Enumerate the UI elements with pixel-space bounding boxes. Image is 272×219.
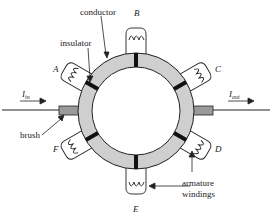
brush-right (193, 106, 213, 115)
label-brush: brush (20, 130, 40, 140)
label-windings: windings (182, 189, 216, 199)
label-winding-E: E (132, 204, 139, 214)
ring-inner-edge (92, 67, 180, 155)
label-insulator: insulator (60, 38, 92, 48)
label-conductor: conductor (80, 7, 116, 17)
label-armature: armature (182, 178, 214, 188)
label-current-out: Iout (228, 89, 240, 100)
commutator-diagram: conductor insulator brush armature windi… (0, 0, 272, 219)
winding-E (126, 166, 146, 194)
label-winding-C: C (215, 64, 222, 74)
winding-B (126, 28, 146, 56)
label-winding-D: D (214, 144, 222, 154)
label-winding-F: F (52, 144, 59, 154)
brush-left (59, 106, 79, 115)
label-winding-B: B (134, 8, 140, 18)
label-winding-A: A (52, 64, 59, 74)
label-current-in: Iin (21, 89, 30, 100)
